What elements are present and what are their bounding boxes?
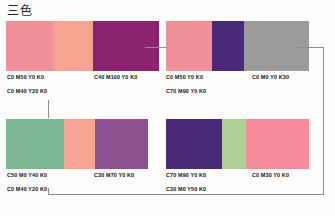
label-c0-m30-y0-k0: C0 M30 Y0 K0 [252,172,289,178]
label-c0-m50-y0-k0: C0 M50 Y0 K0 [166,74,203,80]
swatch-light-green [222,119,246,169]
group-bottom-left [6,119,148,169]
connector-right-vertical [323,47,324,195]
label-c0-m0-y0-k30: C0 M0 Y0 K30 [252,74,289,80]
swatch-pink [6,21,53,71]
group-top-left [6,21,159,71]
connector-bottom-horizontal [48,194,324,195]
connector-bottom-left-vertical [48,188,49,195]
swatch-gray [244,21,309,71]
connector-top-horizontal [145,47,167,48]
swatch-pink [166,21,212,71]
connector-left-vertical [48,100,49,118]
swatch-purple [95,119,148,169]
label-c70-m90-y0-k0: C70 M90 Y0 K0 [166,172,206,178]
swatch-salmon [64,119,95,169]
color-chart-page: 三色 C0 M50 Y0 K0 C40 M100 Y0 K0 C0 M40 Y2… [0,0,335,216]
swatch-violet [212,21,244,71]
swatch-row [6,119,148,169]
label-c0-m40-y20-k0: C0 M40 Y20 K0 [7,186,47,192]
group-top-right [166,21,309,71]
connector-right-top-horizontal [296,47,324,48]
label-c40-m100-y0-k0: C40 M100 Y0 K0 [94,74,137,80]
swatch-magenta [93,21,159,71]
label-c70-m90-y0-k0: C70 M90 Y0 K0 [166,88,206,94]
label-c50-m0-y40-k0: C50 M0 Y40 K0 [7,172,47,178]
group-bottom-right [166,119,309,169]
swatch-pink [246,119,309,169]
swatch-row [166,119,309,169]
label-c30-m0-y50-k0: C30 M0 Y50 K0 [166,186,206,192]
swatch-salmon [53,21,93,71]
swatch-row [166,21,309,71]
label-c0-m50-y0-k0: C0 M50 Y0 K0 [7,74,44,80]
swatch-violet [166,119,222,169]
swatch-green [6,119,64,169]
page-title: 三色 [7,4,33,18]
label-c0-m40-y20-k0: C0 M40 Y20 K0 [7,88,47,94]
swatch-row [6,21,159,71]
label-c30-m70-y0-k0: C30 M70 Y0 K0 [94,172,134,178]
